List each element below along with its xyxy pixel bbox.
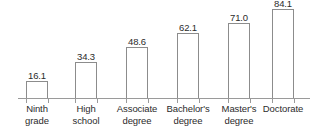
bar-value-label: 62.1 [179,22,197,33]
category-label-associate-degree: Associate degree [111,103,163,126]
bar-group-doctorate[interactable]: 84.1 [259,0,307,99]
category-label-line1: Bachelor's [162,103,214,115]
bar-ninth-grade[interactable] [26,81,48,98]
bar-masters-degree[interactable] [228,23,250,98]
category-label-line1: Associate [111,103,163,115]
category-label-doctorate: Doctorate [257,103,309,115]
category-label-line2: grade [11,115,63,127]
bar-value-label: 84.1 [274,0,292,9]
bar-group-masters-degree[interactable]: 71.0 [215,0,263,99]
category-label-high-school: High school [60,103,112,126]
bar-high-school[interactable] [75,62,97,98]
bar-group-associate-degree[interactable]: 48.6 [113,0,161,99]
category-label-line2: school [60,115,112,127]
bar-value-label: 34.3 [77,51,95,62]
bar-group-ninth-grade[interactable]: 16.1 [13,0,61,99]
category-label-ninth-grade: Ninth grade [11,103,63,126]
bar-group-high-school[interactable]: 34.3 [62,0,110,99]
category-axis-labels: Ninth grade High school Associate degree… [0,103,323,131]
category-label-line1: Ninth [11,103,63,115]
bar-chart: 16.1 34.3 48.6 62.1 71.0 84.1 [0,0,323,131]
bar-doctorate[interactable] [272,9,294,98]
bar-bachelors-degree[interactable] [177,33,199,98]
category-label-line2: degree [162,115,214,127]
plot-area: 16.1 34.3 48.6 62.1 71.0 84.1 [0,0,323,99]
category-label-line1: Doctorate [257,103,309,115]
category-label-line2: degree [111,115,163,127]
category-label-bachelors-degree: Bachelor's degree [162,103,214,126]
bar-value-label: 16.1 [28,70,46,81]
bar-group-bachelors-degree[interactable]: 62.1 [164,0,212,99]
bar-value-label: 71.0 [230,12,248,23]
category-label-line1: High [60,103,112,115]
bar-value-label: 48.6 [128,36,146,47]
category-label-line2: degree [213,115,265,127]
bar-associate-degree[interactable] [126,47,148,98]
